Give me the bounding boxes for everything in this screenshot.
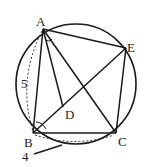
label-c: C xyxy=(118,134,127,149)
segment-ad xyxy=(43,29,63,107)
pointer-arrow-4 xyxy=(34,145,62,154)
label-a: A xyxy=(36,14,46,29)
segment-ae xyxy=(43,29,126,48)
label-d: D xyxy=(65,107,74,122)
label-b: B xyxy=(24,135,33,150)
segment-be xyxy=(33,48,126,133)
geometry-diagram: A E B C D 5 4 xyxy=(0,0,149,167)
label-length-bc: 4 xyxy=(22,149,29,164)
label-e: E xyxy=(127,40,135,55)
segment-ac xyxy=(43,29,116,133)
diagram-canvas: A E B C D 5 4 xyxy=(0,0,149,167)
segment-ab xyxy=(33,29,43,133)
label-length-ab: 5 xyxy=(21,76,28,91)
